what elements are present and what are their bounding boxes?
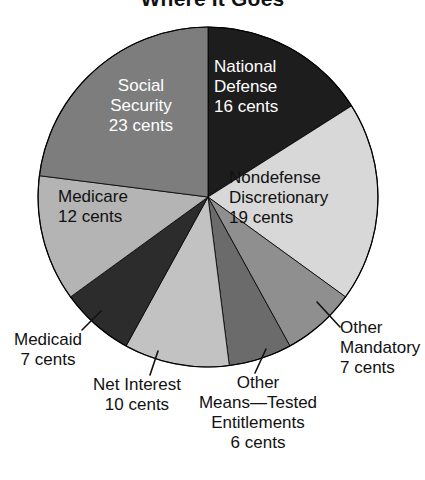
pie-label-other-means-tested-value: 6 cents: [195, 433, 321, 453]
pie-label-other-mandatory-line1: Other: [340, 318, 420, 338]
pie-label-medicaid-value: 7 cents: [2, 350, 94, 370]
pie-label-other-means-tested-line2: Means—Tested: [195, 393, 321, 413]
pie-label-national-defense-line1: National: [214, 57, 278, 77]
pie-chart-figure: Where It Goes: [0, 0, 425, 480]
pie-label-other-means-tested-line3: Entitlements: [195, 413, 321, 433]
pie-label-social-security-line1: Social: [86, 76, 196, 96]
pie-label-other-mandatory-value: 7 cents: [340, 358, 420, 378]
pie-label-nondefense-discretionary-line1: Nondefense: [229, 168, 328, 188]
pie-label-national-defense-value: 16 cents: [214, 97, 278, 117]
pie-label-medicaid: Medicaid 7 cents: [2, 330, 94, 370]
pie-label-social-security: Social Security 23 cents: [86, 76, 196, 136]
pie-label-medicare: Medicare 12 cents: [58, 187, 128, 227]
pie-label-nondefense-discretionary: Nondefense Discretionary 19 cents: [229, 168, 328, 228]
pie-label-other-mandatory-line2: Mandatory: [340, 338, 420, 358]
pie-label-other-mandatory: Other Mandatory 7 cents: [340, 318, 420, 378]
pie-label-nondefense-discretionary-line2: Discretionary: [229, 188, 328, 208]
pie-label-social-security-line2: Security: [86, 96, 196, 116]
pie-label-net-interest-value: 10 cents: [82, 395, 192, 415]
pie-label-nondefense-discretionary-value: 19 cents: [229, 208, 328, 228]
pie-label-net-interest-line1: Net Interest: [82, 375, 192, 395]
pie-label-net-interest: Net Interest 10 cents: [82, 375, 192, 415]
pie-label-medicare-value: 12 cents: [58, 207, 128, 227]
pie-label-social-security-value: 23 cents: [86, 116, 196, 136]
pie-label-national-defense-line2: Defense: [214, 77, 278, 97]
pie-label-national-defense: National Defense 16 cents: [214, 57, 278, 117]
pie-label-medicaid-line1: Medicaid: [2, 330, 94, 350]
pie-label-other-means-tested-line1: Other: [195, 373, 321, 393]
pie-label-other-means-tested-entitlements: Other Means—Tested Entitlements 6 cents: [195, 373, 321, 453]
pie-label-medicare-line1: Medicare: [58, 187, 128, 207]
